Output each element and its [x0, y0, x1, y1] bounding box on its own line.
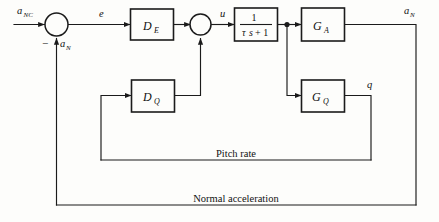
label-error-signal: e — [99, 8, 104, 19]
wire-dq-to-sum2 — [174, 39, 201, 96]
wire-gq-to-pitch-bus — [345, 96, 371, 161]
block-ga-label: G — [313, 19, 322, 33]
label-pitch-rate-output: q — [367, 79, 372, 90]
label-negative-sign: − — [42, 37, 48, 49]
lag-denominator-tau: τ — [242, 27, 246, 38]
block-ga — [302, 8, 345, 41]
label-control-signal: u — [220, 8, 225, 19]
label-pitch-rate-path: Pitch rate — [216, 148, 256, 159]
wire-pitch-bus-to-dq — [101, 96, 131, 161]
summing-junction-1 — [45, 13, 68, 36]
block-de — [131, 9, 174, 40]
block-de-label: D — [142, 19, 152, 33]
label-command-input-subscript: NC — [23, 11, 34, 19]
summing-junction-2 — [190, 14, 211, 35]
lag-denominator-rest: + 1 — [255, 27, 268, 38]
block-dq-label: D — [142, 90, 152, 104]
lag-denominator-s: s — [249, 27, 253, 38]
junction-dot-u — [284, 22, 289, 27]
lag-numerator: 1 — [252, 12, 257, 23]
block-de-subscript: E — [153, 26, 159, 35]
block-ga-subscript: A — [323, 26, 329, 35]
block-gq-label: G — [312, 90, 321, 104]
block-diagram-figure: D E 1 τ s + 1 G A D Q G Q a NC − a N e u… — [0, 0, 439, 222]
block-gq-subscript: Q — [323, 97, 329, 106]
label-command-input: a — [17, 5, 22, 16]
label-normal-acceleration-path: Normal acceleration — [193, 193, 279, 204]
block-dq-subscript: Q — [154, 97, 160, 106]
block-diagram-canvas: D E 1 τ s + 1 G A D Q G Q a NC − a N e u… — [0, 0, 439, 222]
label-acceleration-output-subscript: N — [409, 11, 415, 19]
label-acceleration-feedback: a — [60, 38, 65, 49]
block-dq — [132, 80, 175, 112]
wire-ga-output-down — [344, 25, 416, 206]
wire-junction-to-gq — [287, 25, 301, 96]
label-acceleration-output: a — [404, 5, 409, 16]
label-acceleration-feedback-subscript: N — [65, 44, 71, 52]
